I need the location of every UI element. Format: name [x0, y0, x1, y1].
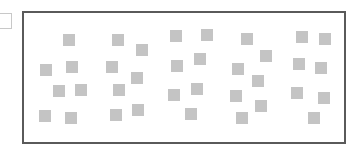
canvas-square[interactable] [260, 50, 272, 62]
canvas-square[interactable] [136, 44, 148, 56]
canvas-square[interactable] [168, 89, 180, 101]
canvas-square[interactable] [296, 31, 308, 43]
canvas-square[interactable] [171, 60, 183, 72]
canvas-square[interactable] [318, 92, 330, 104]
canvas-square[interactable] [252, 75, 264, 87]
canvas-square[interactable] [293, 58, 305, 70]
canvas-square[interactable] [315, 62, 327, 74]
canvas-square[interactable] [170, 30, 182, 42]
canvas-square[interactable] [40, 64, 52, 76]
canvas-square[interactable] [65, 112, 77, 124]
canvas-square[interactable] [236, 112, 248, 124]
canvas-square[interactable] [191, 83, 203, 95]
canvas-square[interactable] [113, 84, 125, 96]
canvas-frame[interactable] [22, 11, 346, 144]
canvas-square[interactable] [132, 104, 144, 116]
canvas-square[interactable] [66, 61, 78, 73]
canvas-square[interactable] [106, 61, 118, 73]
side-input-box[interactable] [0, 13, 12, 29]
canvas-square[interactable] [39, 110, 51, 122]
canvas-square[interactable] [75, 84, 87, 96]
canvas-square[interactable] [185, 108, 197, 120]
canvas-square[interactable] [232, 63, 244, 75]
canvas-square[interactable] [230, 90, 242, 102]
canvas-square[interactable] [241, 33, 253, 45]
canvas-square[interactable] [110, 109, 122, 121]
canvas-square[interactable] [131, 72, 143, 84]
canvas-square[interactable] [201, 29, 213, 41]
canvas-square[interactable] [63, 34, 75, 46]
canvas-square[interactable] [308, 112, 320, 124]
canvas-square[interactable] [112, 34, 124, 46]
canvas-square[interactable] [255, 100, 267, 112]
canvas-square[interactable] [291, 87, 303, 99]
canvas-square[interactable] [319, 33, 331, 45]
canvas-square[interactable] [194, 53, 206, 65]
canvas-square[interactable] [53, 85, 65, 97]
